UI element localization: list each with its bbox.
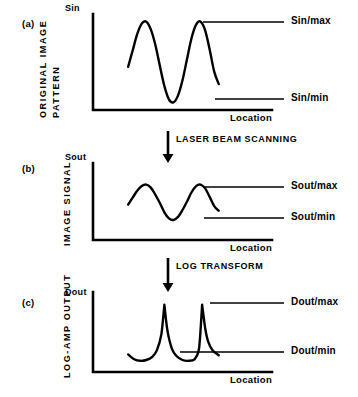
y-axis-symbol: Sin [65,3,80,13]
panel-tag: (c) [22,297,35,308]
figure-root: Sin/maxSin/min(a)SinLocationORIGINAL IMA… [0,0,358,397]
panel-tag: (b) [22,163,35,174]
min-level-label: Dout/min [291,345,336,356]
panel-tag: (a) [22,18,35,29]
panel-axes [93,14,272,110]
min-level-label: Sin/min [291,92,329,103]
panel-axes [93,163,272,240]
transition-arrow-head [163,283,174,292]
y-axis-title: ORIGINAL IMAGE [38,20,48,118]
transition-label: LASER BEAM SCANNING [176,134,297,144]
signal-curve [128,184,219,220]
y-axis-title: PATTERN [51,66,61,118]
transition-label: LOG TRANSFORM [176,261,263,271]
max-level-label: Dout/max [291,296,338,307]
y-axis-title: LOG-AMP OUTPUT [62,274,72,378]
x-axis-label: Location [230,242,272,253]
x-axis-label: Location [230,374,272,385]
signal-curve [128,21,219,102]
max-level-label: Sin/max [291,15,331,26]
transition-arrow-head [163,154,174,163]
min-level-label: Sout/min [291,211,335,222]
max-level-label: Sout/max [291,180,338,191]
y-axis-title: IMAGE SIGNAL [62,161,72,246]
x-axis-label: Location [230,112,272,123]
